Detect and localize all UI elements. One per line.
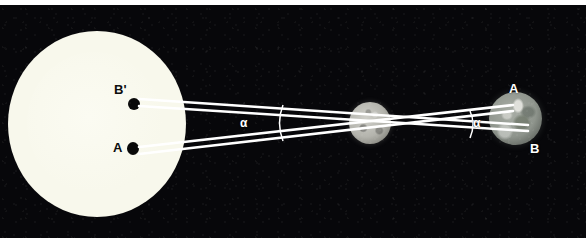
label-transit-a: A — [113, 141, 122, 154]
label-transit-b-prime: B' — [114, 83, 126, 96]
angle-arc-left — [280, 105, 284, 141]
figure-canvas: B' A A B α α — [0, 0, 586, 244]
label-angle-alpha-right: α — [473, 117, 480, 129]
label-earth-b: B — [530, 142, 539, 155]
sight-lines-overlay — [0, 5, 586, 238]
night-sky-background: B' A A B α α — [0, 5, 586, 238]
label-angle-alpha-left: α — [240, 117, 247, 129]
label-earth-a: A — [509, 82, 518, 95]
